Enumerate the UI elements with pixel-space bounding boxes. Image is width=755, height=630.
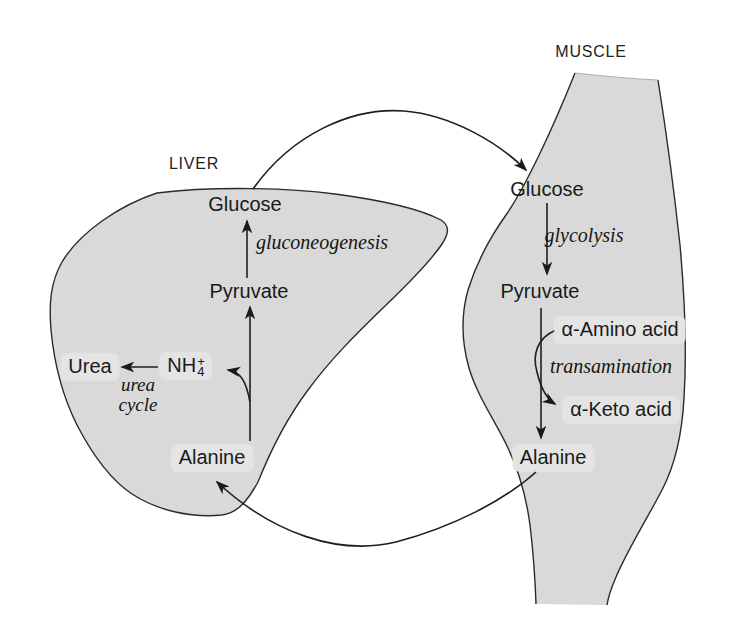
node-glucose-muscle: Glucose: [510, 179, 583, 200]
arrow-glucose-liver-to-muscle: [253, 111, 526, 189]
liver-region-label: LIVER: [169, 156, 219, 173]
node-alanine-muscle: Alanine: [513, 445, 594, 471]
node-glucose-liver: Glucose: [208, 194, 281, 215]
arrow-alanine-muscle-to-liver: [217, 472, 536, 546]
process-urea-cycle: urea cycle: [118, 375, 157, 415]
process-gluconeogenesis: gluconeogenesis: [256, 232, 388, 253]
node-urea: Urea: [61, 354, 118, 380]
muscle-region-label: MUSCLE: [555, 44, 626, 61]
ammonium-base: NH: [167, 355, 196, 376]
node-alpha-amino-acid: α-Amino acid: [554, 317, 685, 343]
process-glycolysis: glycolysis: [545, 225, 624, 246]
node-pyruvate-liver: Pyruvate: [210, 281, 289, 302]
ammonium-subscript: 4: [197, 367, 204, 377]
diagram-canvas: [0, 0, 755, 630]
glucose-alanine-cycle-diagram: LIVER MUSCLE Glucose gluconeogenesis Pyr…: [0, 0, 755, 630]
node-alpha-keto-acid: α-Keto acid: [563, 397, 679, 423]
node-pyruvate-muscle: Pyruvate: [501, 281, 580, 302]
urea-cycle-line2: cycle: [118, 395, 157, 415]
node-ammonium: NH + 4: [160, 353, 211, 379]
urea-cycle-line1: urea: [118, 375, 157, 395]
process-transamination: transamination: [550, 356, 672, 377]
node-alanine-liver: Alanine: [172, 445, 253, 471]
